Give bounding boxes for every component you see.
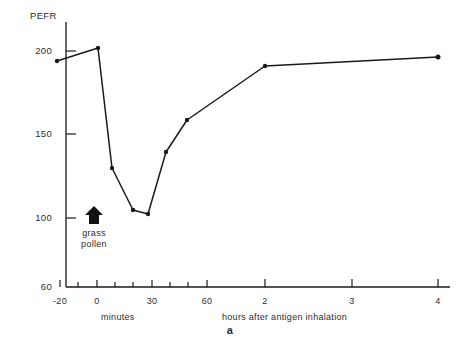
data-point bbox=[131, 208, 135, 212]
pefr-data-line bbox=[57, 48, 438, 214]
data-point bbox=[436, 55, 441, 60]
data-point bbox=[164, 150, 168, 154]
figure-caption: a bbox=[222, 324, 238, 336]
y-tick-label-200: 200 bbox=[26, 45, 52, 56]
x-axis-ticks-minutes bbox=[60, 280, 207, 287]
data-point bbox=[55, 59, 59, 63]
y-axis-title: PEFR bbox=[30, 10, 57, 21]
data-point bbox=[96, 46, 100, 50]
y-tick-label-150: 150 bbox=[26, 128, 52, 139]
y-axis-ticks bbox=[66, 51, 76, 218]
x-axis-label-minutes: minutes bbox=[101, 312, 135, 322]
grass-pollen-line1: grass bbox=[82, 228, 106, 238]
grass-pollen-line2: pollen bbox=[81, 239, 107, 249]
pefr-chart: PEFR 200 150 100 60 -20 0 30 60 2 3 4 mi… bbox=[0, 0, 462, 350]
y-tick-label-60: 60 bbox=[26, 281, 52, 292]
x-tick-label-hour-3: 3 bbox=[337, 296, 367, 306]
x-tick-label-0: 0 bbox=[82, 296, 112, 306]
x-tick-label-30: 30 bbox=[137, 296, 167, 306]
up-arrow-icon bbox=[85, 206, 103, 224]
pefr-data-markers bbox=[55, 46, 441, 216]
data-point bbox=[185, 118, 189, 122]
y-tick-label-100: 100 bbox=[26, 212, 52, 223]
data-point bbox=[110, 166, 114, 170]
data-point bbox=[263, 64, 267, 68]
x-tick-label-hour-2: 2 bbox=[250, 296, 280, 306]
x-tick-label-60: 60 bbox=[192, 296, 222, 306]
x-axis-label-hours: hours after antigen inhalation bbox=[222, 312, 347, 322]
x-tick-label-hour-4: 4 bbox=[423, 296, 453, 306]
grass-pollen-annotation: grass pollen bbox=[69, 228, 119, 250]
data-point bbox=[146, 212, 150, 216]
x-axis-ticks-hours bbox=[265, 279, 438, 287]
x-tick-label-minus20: -20 bbox=[45, 296, 75, 306]
